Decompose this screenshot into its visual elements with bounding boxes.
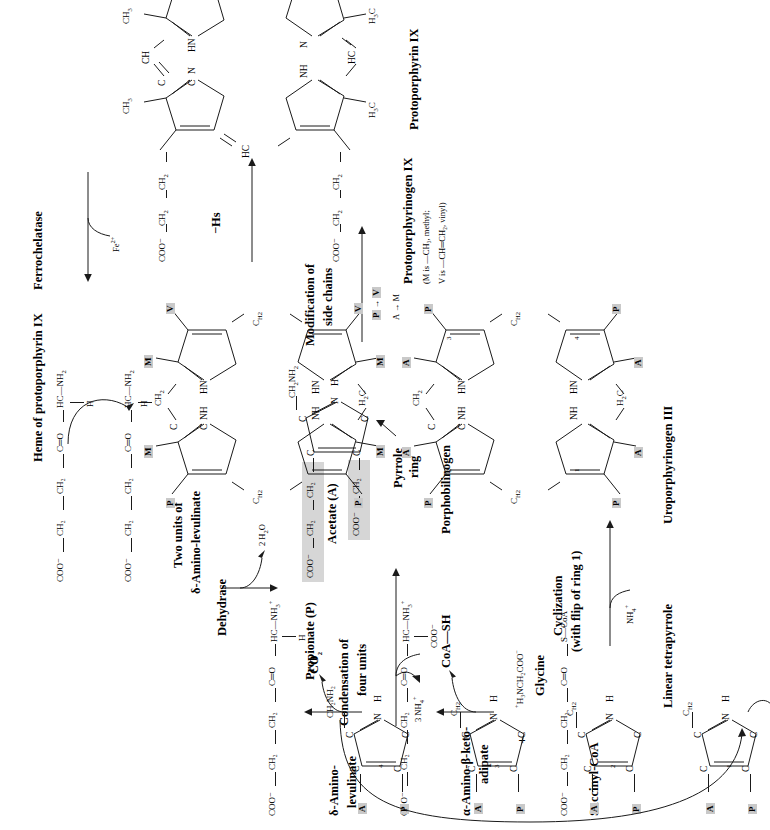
ala-atom-ch2-2: CH₂	[268, 712, 277, 728]
pp-methyl-3: H3C	[368, 102, 379, 118]
uro-sub-P-4: P	[606, 499, 622, 509]
pp-propionate2-coo: COO⁻	[332, 238, 341, 262]
uro-ring1-c-bot: C	[458, 424, 468, 430]
uro-ring1-nh: NH	[458, 406, 468, 420]
ppgen-ring1-c-bot: C	[200, 424, 210, 430]
uro-ring2-hn: HN	[458, 380, 468, 394]
uro-ring-number-3: 3	[446, 337, 453, 341]
ppgen-sub-M-3: M	[370, 356, 386, 369]
pp-methyl-1: CH3	[122, 98, 133, 114]
uroporphyrinogen-label: Uroporphyrinogen III	[662, 406, 675, 524]
ppgen-bridge-top: CH2	[154, 390, 165, 406]
cyclization-byproduct: NH4+	[624, 605, 637, 624]
protoporphyrinogen-note-line1: (M is —CH₃, methyl;	[422, 210, 431, 284]
pp-hn-1: HN	[188, 38, 198, 52]
uro-ring3-hn: HN	[570, 380, 580, 394]
cyclization-label-line1: Cyclization	[552, 576, 565, 636]
arrow-oxidation	[232, 150, 272, 270]
pp-bridge-ch-top: CH	[142, 51, 152, 64]
pbg-propionate-ch2-1: CH₂	[306, 520, 315, 536]
uro-ring-number-2: 2	[446, 469, 453, 473]
lt-cyclization-sweep	[330, 600, 770, 830]
two-units-title-line1: Two units of	[172, 502, 185, 568]
pp-propionate1-ch2-b: CH2	[158, 210, 169, 226]
protoporphyrinogen-note-line2: V is —CH═CH₂, vinyl)	[438, 202, 447, 284]
ala-atom-ch2-1: CH₂	[268, 754, 277, 770]
pbg-propionate-coo: COO⁻	[306, 554, 315, 578]
ala-unitA-ch2-2: CH₂	[56, 478, 65, 494]
pp-propionate1-ch2-a: CH2	[158, 174, 169, 190]
uro-sub-P-3: P	[606, 305, 622, 315]
ferrochelatase-enzyme-label: Ferrochelatase	[32, 211, 45, 290]
ala-unitA-coo: COO⁻	[56, 558, 65, 582]
uro-bridge-bottom: H2C	[616, 390, 627, 406]
pp-propionate2-ch2-b: CH2	[332, 210, 343, 226]
pp-nh-1: NH	[300, 64, 310, 78]
uro-sub-A-4: A	[628, 448, 644, 459]
ppgen-bridge-bottom: H2C	[358, 390, 369, 406]
oxidation-label: −Hs	[210, 212, 223, 234]
ppgen-sub-P-1: P	[160, 499, 176, 509]
uro-ring4-nh: NH	[570, 406, 580, 420]
ppgen-sub-M-4: M	[370, 446, 386, 459]
pp-methyl-2: CH3	[122, 8, 133, 24]
dehydrase-byproduct: 2 H2O	[258, 524, 269, 546]
ppgen-sub-V-2: V	[348, 304, 364, 315]
uro-sub-P-1: P	[418, 499, 434, 509]
pp-ring-c-tl: C	[158, 80, 168, 86]
ala-unitA-ch2-1: CH₂	[56, 520, 65, 536]
ppgen-sub-M-2: M	[138, 356, 154, 369]
ala-unitB-h: H	[140, 401, 149, 408]
heme-product-label: Heme of protoporphyrin IX	[32, 313, 45, 462]
uro-sub-A-2: A	[396, 358, 412, 369]
protoporphyrin-macrocycle	[140, 0, 370, 168]
ala-atom-carbonyl: C═O	[268, 667, 277, 686]
ppgen-sub-P-2: P	[348, 499, 364, 509]
ferrochelatase-substrate: Fe2+	[110, 237, 120, 252]
ala-atom-coo: COO⁻	[268, 792, 277, 816]
pp-methyl-4: H3C	[368, 8, 379, 24]
ala-atom-hc-nh3: HC—NH3+	[268, 601, 281, 642]
uroporphyrinogen-macrocycle	[410, 282, 640, 512]
uro-sub-A-3: A	[628, 358, 644, 369]
ala-unitB-coo: COO⁻	[124, 558, 133, 582]
ppgen-sub-M-1: M	[138, 446, 154, 459]
cyclization-label-line2: (with flip of ring 1)	[570, 551, 583, 652]
ppgen-hn-2: HN	[312, 380, 322, 394]
uro-ring-number-4: 4	[574, 337, 581, 341]
ala-unitB-ch2-1: CH₂	[124, 520, 133, 536]
ppgen-ring1-c-top: C	[170, 424, 180, 430]
uro-ring1-c-top: C	[428, 424, 438, 430]
uro-sub-A-1: A	[396, 448, 412, 459]
protoporphyrinogen-macrocycle	[152, 282, 382, 512]
pp-propionate2-ch2-a: CH2	[332, 174, 343, 190]
pp-bridge-hc-bottom: HC	[348, 51, 358, 64]
ppgen-hn-1: HN	[200, 380, 210, 394]
uro-bridge-top: CH2	[412, 390, 423, 406]
uro-ring-number-1: 1	[574, 469, 581, 473]
modification-rule-2: A → M	[392, 294, 401, 320]
dehydrase-enzyme-label: Dehydrase	[216, 579, 229, 636]
arrow-cyclization	[590, 514, 630, 654]
uro-sub-P-2: P	[418, 305, 434, 315]
uro-bridge-left: CH2	[510, 490, 521, 504]
ppgen-nh-2: NH	[312, 406, 322, 420]
protoporphyrinogen-label: Protoporphyrinogen IX	[402, 157, 415, 284]
arrow-ferrochelatase	[58, 160, 118, 290]
pp-propionate1-coo: COO⁻	[158, 238, 167, 262]
pp-n-2: N	[300, 41, 310, 48]
pp-bridge-hc-left: HC	[242, 145, 252, 158]
pp-n-1: N	[188, 67, 198, 74]
pbg-acetate-coo: COO⁻	[352, 512, 361, 536]
ppgen-bridge-left: CH2	[252, 490, 263, 504]
ppgen-sub-V-1: V	[160, 304, 176, 315]
ala-unitB-ch2-2: CH₂	[124, 478, 133, 494]
propionate-label: Propionate (P)	[304, 602, 317, 680]
ppgen-nh-1: NH	[200, 406, 210, 420]
uro-bridge-right: CH2	[510, 312, 521, 326]
ppgen-bridge-right: CH2	[252, 312, 263, 326]
pp-ring-c-bl: C	[188, 80, 198, 86]
protoporphyrin-label: Protoporphyrin IX	[408, 28, 421, 130]
